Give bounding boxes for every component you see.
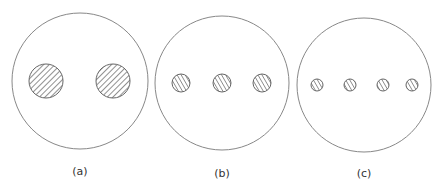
hatched-inclusion	[253, 74, 271, 92]
hatched-inclusion	[344, 79, 356, 91]
hatched-inclusion	[377, 79, 389, 91]
hatched-inclusion	[311, 79, 323, 91]
panel-b: (b)	[155, 16, 289, 180]
diagram-canvas: (a) (b) (c)	[0, 0, 441, 186]
hatched-inclusion	[172, 74, 190, 92]
panel-c: (c)	[297, 18, 431, 180]
hatched-inclusion	[213, 74, 231, 92]
panel-label-a: (a)	[72, 165, 87, 178]
hatched-inclusion	[29, 64, 63, 98]
panel-label-b: (b)	[214, 167, 230, 180]
hatched-inclusion	[406, 79, 418, 91]
panel-label-c: (c)	[357, 167, 372, 180]
panel-a: (a)	[12, 13, 148, 178]
hatched-inclusion	[96, 64, 130, 98]
